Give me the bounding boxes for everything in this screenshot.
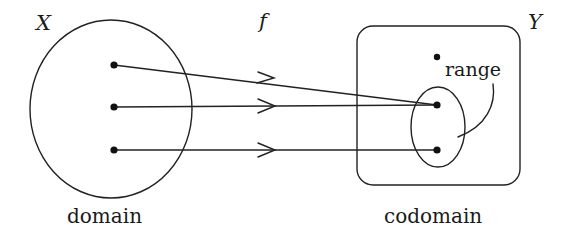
function-diagram: X f Y range domain codomain (0, 0, 573, 244)
range-point (433, 146, 440, 153)
range-ellipse (411, 87, 465, 167)
domain-point (110, 103, 117, 110)
function-label: f (259, 11, 267, 32)
arrow-x1-to-y1 (114, 65, 437, 105)
domain-point (110, 61, 117, 68)
domain-ellipse (30, 20, 192, 198)
codomain-unmapped-point (434, 54, 440, 60)
domain-set-label: X (36, 13, 51, 34)
range-point (433, 101, 440, 108)
domain-caption: domain (67, 206, 142, 226)
arrowhead-x1-to-y1 (257, 72, 274, 83)
range-label: range (445, 60, 501, 79)
domain-point (110, 146, 117, 153)
codomain-caption: codomain (384, 206, 482, 226)
codomain-set-label: Y (528, 12, 542, 33)
